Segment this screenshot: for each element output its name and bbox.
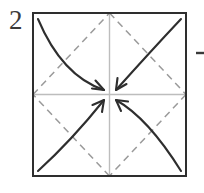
crease-midright-to-midbottom — [110, 95, 187, 177]
origami-diagram — [0, 0, 204, 193]
origami-step-figure: 2 — [0, 0, 204, 193]
fold-arrow-bottom-right — [116, 100, 181, 171]
fold-arrow-bottom-right-curve — [116, 100, 181, 171]
